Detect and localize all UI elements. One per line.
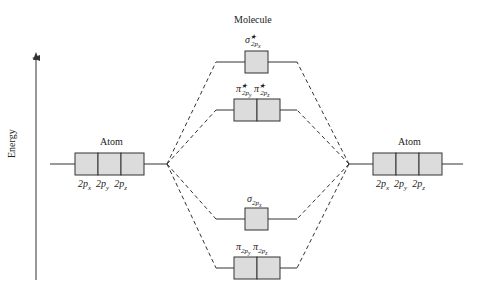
right-atom-label: Atom	[398, 136, 421, 147]
mo-pi	[216, 257, 297, 279]
left-orbital-labels: 2px 2py 2pz	[78, 178, 127, 192]
left-atom-orbitals	[75, 153, 144, 175]
mo-sigma	[216, 208, 297, 230]
sigma-star-label: σ★2px	[245, 33, 261, 50]
mo-sigma-star	[216, 51, 297, 73]
energy-axis-label: Energy	[6, 129, 17, 158]
right-atom-orbitals	[373, 153, 442, 175]
pi-label: π2py π2pz	[236, 241, 267, 256]
right-orbital-labels: 2px 2py 2pz	[376, 178, 425, 192]
diagram-title: Molecule	[234, 14, 272, 25]
sigma-label: σ2px	[247, 193, 262, 208]
pi-star-label: π★2py π★2pz	[236, 82, 269, 99]
mo-pi-star	[216, 99, 297, 121]
left-atom-label: Atom	[100, 136, 123, 147]
